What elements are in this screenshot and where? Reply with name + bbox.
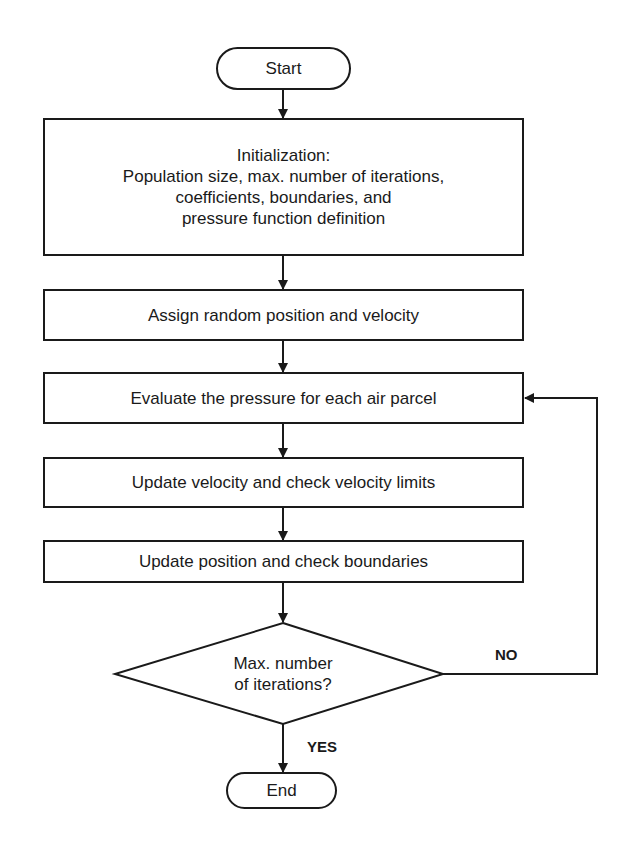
arrow-no-loop bbox=[443, 398, 597, 674]
init-line-1: Population size, max. number of iteratio… bbox=[123, 166, 444, 187]
init-line-3: pressure function definition bbox=[123, 208, 444, 229]
step-label: Update velocity and check velocity limit… bbox=[132, 472, 435, 493]
step-update-position: Update position and check boundaries bbox=[43, 540, 524, 583]
end-label: End bbox=[266, 780, 296, 801]
init-line-2: coefficients, boundaries, and bbox=[123, 187, 444, 208]
step-evaluate-pressure: Evaluate the pressure for each air parce… bbox=[43, 372, 524, 424]
yes-label: YES bbox=[307, 738, 337, 755]
end-terminal: End bbox=[226, 772, 337, 809]
start-label: Start bbox=[266, 58, 302, 79]
no-label: NO bbox=[495, 646, 518, 663]
init-title: Initialization: bbox=[123, 145, 444, 166]
decision-text: Max. number of iterations? bbox=[183, 640, 383, 708]
step-label: Evaluate the pressure for each air parce… bbox=[130, 388, 436, 409]
step-initialization: Initialization: Population size, max. nu… bbox=[43, 118, 524, 256]
step-assign-random: Assign random position and velocity bbox=[43, 289, 524, 341]
decision-line-1: Max. number bbox=[233, 653, 332, 674]
step-label: Assign random position and velocity bbox=[148, 305, 419, 326]
start-terminal: Start bbox=[216, 47, 351, 90]
step-label: Update position and check boundaries bbox=[139, 551, 428, 572]
step-update-velocity: Update velocity and check velocity limit… bbox=[43, 457, 524, 508]
decision-line-2: of iterations? bbox=[233, 674, 332, 695]
